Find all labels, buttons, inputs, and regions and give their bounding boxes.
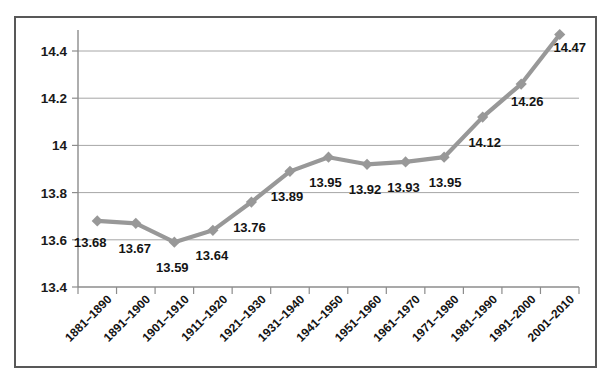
- data-label-1891–1900: 13.67: [119, 241, 152, 256]
- data-label-1981–1990: 14.12: [468, 135, 501, 150]
- data-label-1951–1960: 13.92: [349, 182, 382, 197]
- chart-container: 13.413.613.81414.214.413.6813.6713.5913.…: [14, 16, 597, 368]
- data-point-marker[interactable]: [323, 152, 334, 163]
- data-label-1971–1980: 13.95: [429, 175, 462, 190]
- data-label-1911–1920: 13.64: [196, 248, 229, 263]
- gridlines-group: 13.413.613.81414.214.4: [41, 44, 579, 295]
- x-axis-labels-group: 1881–18901891–19001901–19101911–19201921…: [62, 292, 577, 345]
- data-label-1881–1890: 13.68: [74, 235, 107, 250]
- x-axis-ticks-group: [78, 287, 579, 294]
- data-label-1991–2000: 14.26: [511, 94, 544, 109]
- data-point-marker[interactable]: [92, 215, 103, 226]
- data-point-marker[interactable]: [400, 156, 411, 167]
- line-chart: 13.413.613.81414.214.413.6813.6713.5913.…: [16, 18, 595, 366]
- y-axis-label-14.2: 14.2: [41, 91, 67, 106]
- y-axis-label-14.4: 14.4: [41, 44, 68, 59]
- y-axis-label-14: 14: [52, 138, 68, 153]
- data-label-1931–1940: 13.89: [271, 189, 304, 204]
- data-label-2001–2010: 14.47: [553, 40, 586, 55]
- data-label-1941–1950: 13.95: [309, 175, 342, 190]
- y-axis-label-13.4: 13.4: [41, 280, 68, 295]
- data-label-1961–1970: 13.93: [387, 180, 420, 195]
- data-label-1901–1910: 13.59: [156, 260, 189, 275]
- y-axis-label-13.8: 13.8: [41, 186, 68, 201]
- y-axis-label-13.6: 13.6: [41, 233, 68, 248]
- data-label-1921–1930: 13.76: [233, 220, 266, 235]
- data-point-marker[interactable]: [361, 159, 372, 170]
